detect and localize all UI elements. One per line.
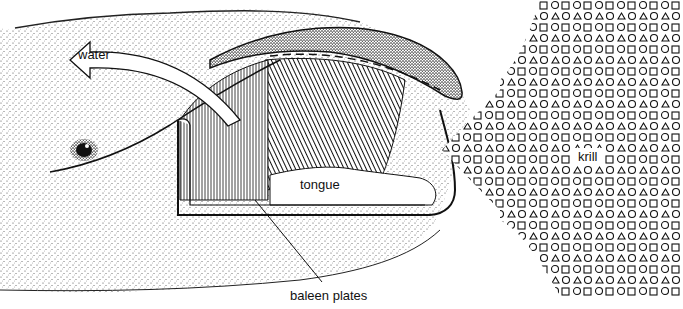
- label-tongue: tongue: [300, 178, 340, 191]
- label-baleen-plates: baleen plates: [290, 289, 367, 302]
- whale-eye: [70, 139, 98, 161]
- label-krill: krill: [572, 148, 604, 165]
- label-water: water: [78, 48, 110, 61]
- krill-swarm: [442, 0, 683, 296]
- whale-feeding-diagram: water tongue baleen plates krill: [0, 0, 683, 309]
